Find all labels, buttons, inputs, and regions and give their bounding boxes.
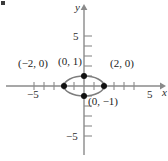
point-label-bottom-covertex: (0, −1)	[88, 96, 118, 107]
vertex-dot-right	[101, 83, 107, 89]
point-label-right-vertex: (2, 0)	[110, 58, 134, 69]
coordinate-plane	[0, 0, 168, 161]
point-label-top-covertex: (0, 1)	[58, 56, 82, 67]
y-axis-label: y	[75, 2, 80, 13]
vertex-dot-left	[61, 83, 67, 89]
y-axis-arrowhead	[81, 4, 88, 10]
covertex-dot-top	[81, 73, 87, 79]
x-axis-label: x	[162, 87, 167, 98]
point-label-left-vertex: (−2, 0)	[18, 58, 48, 69]
ellipse-figure: y x −5 5 5 −5 (−2, 0) (2, 0) (0, 1) (0, …	[0, 0, 168, 161]
y-tick-label-negative-5: −5	[66, 131, 78, 142]
x-tick-label-negative-5: −5	[27, 89, 39, 100]
y-tick-label-positive-5: 5	[73, 31, 79, 42]
x-tick-label-positive-5: 5	[147, 89, 153, 100]
covertex-dot-bottom	[81, 93, 87, 99]
